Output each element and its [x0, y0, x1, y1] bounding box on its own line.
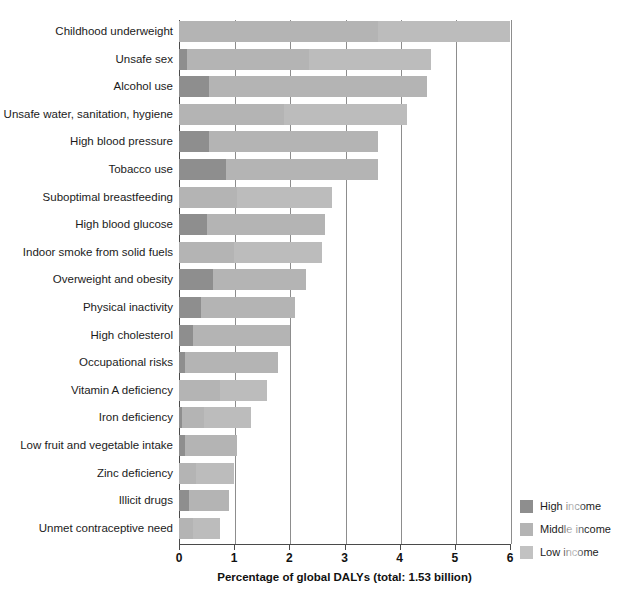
bar-segment-middle-income	[179, 187, 237, 208]
bar-segment-low-income	[378, 21, 510, 42]
bar-segment-middle-income	[226, 159, 378, 180]
bar-row: Tobacco use	[0, 159, 622, 180]
category-label: Childhood underweight	[0, 21, 173, 42]
category-label: Unsafe water, sanitation, hygiene	[0, 104, 173, 125]
bar-segment-low-income	[193, 518, 221, 539]
bar-segment-middle-income	[207, 214, 326, 235]
x-tick-6	[510, 544, 511, 550]
bar-segment-middle-income	[193, 325, 290, 346]
x-tick-label-2: 2	[286, 551, 293, 565]
bar-row: Unsafe sex	[0, 49, 622, 70]
category-label: Tobacco use	[0, 159, 173, 180]
x-tick-label-5: 5	[451, 551, 458, 565]
stacked-bar	[179, 214, 325, 235]
stacked-bar	[179, 463, 234, 484]
bar-segment-high-income	[179, 131, 209, 152]
bar-row: Overweight and obesity	[0, 269, 622, 290]
bar-segment-high-income	[179, 49, 187, 70]
bar-row: Vitamin A deficiency	[0, 380, 622, 401]
x-tick-label-6: 6	[507, 551, 514, 565]
bar-segment-middle-income	[201, 297, 295, 318]
stacked-bar	[179, 21, 510, 42]
bar-row: Childhood underweight	[0, 21, 622, 42]
bar-row: Suboptimal breastfeeding	[0, 187, 622, 208]
x-tick-4	[400, 544, 401, 550]
category-label: Zinc deficiency	[0, 463, 173, 484]
stacked-bar	[179, 269, 306, 290]
bar-segment-middle-income	[213, 269, 306, 290]
stacked-bar	[179, 297, 295, 318]
bar-segment-high-income	[179, 214, 207, 235]
bar-segment-low-income	[237, 187, 332, 208]
bar-row: High cholesterol	[0, 325, 622, 346]
bar-segment-middle-income	[179, 518, 193, 539]
bar-segment-low-income	[204, 407, 251, 428]
stacked-bar	[179, 76, 427, 97]
legend-swatch-high-income	[520, 500, 533, 513]
stacked-bar	[179, 187, 332, 208]
bar-segment-high-income	[179, 490, 189, 511]
category-label: Low fruit and vegetable intake	[0, 435, 173, 456]
stacked-bar	[179, 380, 267, 401]
bar-segment-low-income	[284, 104, 407, 125]
bar-segment-middle-income	[179, 380, 220, 401]
bar-segment-middle-income	[209, 76, 427, 97]
stacked-bar	[179, 490, 229, 511]
bar-row: High blood glucose	[0, 214, 622, 235]
category-label: High blood glucose	[0, 214, 173, 235]
stacked-bar	[179, 518, 220, 539]
bar-row: Indoor smoke from solid fuels	[0, 242, 622, 263]
category-label: Unmet contraceptive need	[0, 518, 173, 539]
category-label: Occupational risks	[0, 352, 173, 373]
bar-row: Unsafe water, sanitation, hygiene	[0, 104, 622, 125]
stacked-bar	[179, 352, 278, 373]
category-label: Overweight and obesity	[0, 269, 173, 290]
category-label: Physical inactivity	[0, 297, 173, 318]
x-tick-1	[234, 544, 235, 550]
bar-segment-middle-income	[179, 104, 284, 125]
bar-segment-high-income	[179, 159, 226, 180]
bar-segment-middle-income	[209, 131, 377, 152]
bar-segment-low-income	[196, 463, 235, 484]
bar-segment-middle-income	[179, 242, 234, 263]
bar-segment-low-income	[220, 380, 267, 401]
category-label: Iron deficiency	[0, 407, 173, 428]
legend-swatch-middle-income	[520, 523, 533, 536]
category-label: High cholesterol	[0, 325, 173, 346]
bar-segment-high-income	[179, 76, 209, 97]
category-label: Unsafe sex	[0, 49, 173, 70]
bar-segment-low-income	[234, 242, 322, 263]
bar-segment-middle-income	[179, 21, 378, 42]
bar-row: Iron deficiency	[0, 407, 622, 428]
bar-segment-middle-income	[185, 435, 237, 456]
bar-segment-middle-income	[182, 407, 204, 428]
x-tick-label-0: 0	[176, 551, 183, 565]
bar-segment-low-income	[309, 49, 431, 70]
legend-label-middle-income: Middle income	[540, 519, 611, 540]
x-tick-label-1: 1	[231, 551, 238, 565]
category-label: Suboptimal breastfeeding	[0, 187, 173, 208]
category-label: Illicit drugs	[0, 490, 173, 511]
stacked-bar	[179, 435, 237, 456]
bar-segment-high-income	[179, 325, 193, 346]
bar-segment-middle-income	[185, 352, 279, 373]
legend-swatch-low-income	[520, 546, 533, 559]
x-tick-2	[289, 544, 290, 550]
category-label: Vitamin A deficiency	[0, 380, 173, 401]
x-tick-label-3: 3	[341, 551, 348, 565]
bar-segment-middle-income	[179, 463, 196, 484]
bar-segment-middle-income	[189, 490, 229, 511]
bar-row: Zinc deficiency	[0, 463, 622, 484]
stacked-bar	[179, 49, 431, 70]
x-tick-3	[345, 544, 346, 550]
x-tick-5	[455, 544, 456, 550]
legend-label-high-income: High income	[540, 496, 601, 517]
bar-segment-high-income	[179, 297, 201, 318]
bar-row: Alcohol use	[0, 76, 622, 97]
x-tick-0	[179, 544, 180, 550]
bar-row: Physical inactivity	[0, 297, 622, 318]
bar-segment-middle-income	[187, 49, 308, 70]
stacked-bar	[179, 325, 290, 346]
category-label: Alcohol use	[0, 76, 173, 97]
bar-row: Occupational risks	[0, 352, 622, 373]
